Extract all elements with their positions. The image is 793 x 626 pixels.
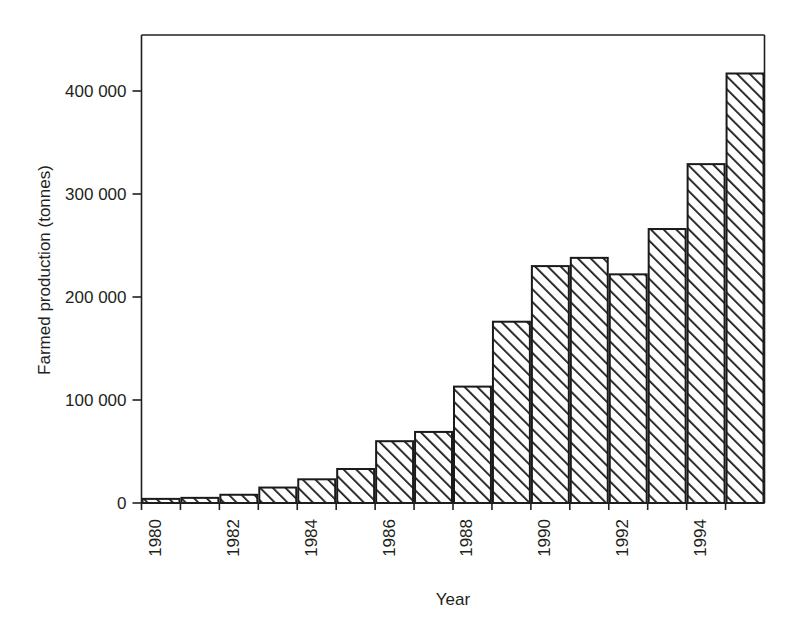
y-tick-label: 300 000 — [65, 185, 126, 204]
y-tick-label: 200 000 — [65, 288, 126, 307]
bar-1991 — [571, 258, 608, 503]
x-axis-title: Year — [436, 590, 471, 609]
x-tick-label: 1988 — [457, 519, 476, 557]
bar-1994 — [688, 164, 725, 503]
bar-1990 — [532, 266, 569, 503]
bar-1986 — [376, 441, 413, 503]
chart-figure: 0100 000200 000300 000400 000 1980198219… — [0, 0, 793, 626]
bar-1987 — [415, 432, 452, 503]
x-tick-label: 1992 — [613, 519, 632, 557]
bar-1985 — [337, 469, 374, 503]
y-axis-title: Farmed production (tonnes) — [35, 165, 54, 375]
x-tick-label: 1986 — [380, 519, 399, 557]
bar-1982 — [220, 495, 257, 503]
bar-1983 — [259, 488, 296, 503]
x-tick-label: 1994 — [691, 519, 710, 557]
bar-1995 — [727, 73, 764, 503]
y-tick-label: 100 000 — [65, 391, 126, 410]
x-tick-label: 1990 — [535, 519, 554, 557]
bar-chart: 0100 000200 000300 000400 000 1980198219… — [0, 0, 793, 626]
x-tick-label: 1980 — [146, 519, 165, 557]
bar-1989 — [493, 322, 530, 503]
bar-1984 — [298, 479, 335, 503]
x-tick-label: 1984 — [302, 519, 321, 557]
x-tick-label: 1982 — [224, 519, 243, 557]
bar-1992 — [610, 274, 647, 503]
y-tick-label: 0 — [117, 494, 126, 513]
bar-1988 — [454, 387, 491, 503]
y-tick-label: 400 000 — [65, 82, 126, 101]
bar-1993 — [649, 229, 686, 503]
